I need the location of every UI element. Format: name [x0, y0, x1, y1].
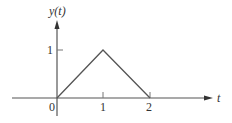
origin-label: 0 — [49, 100, 55, 114]
y-axis-label: y(t) — [48, 4, 66, 18]
x-tick-label-2: 2 — [146, 100, 152, 114]
y-axis-arrow-icon — [55, 20, 60, 29]
x-tick-label-1: 1 — [100, 100, 106, 114]
x-axis-arrow-icon — [204, 96, 213, 101]
x-axis-label: t — [217, 91, 221, 105]
y-tick-label-1: 1 — [47, 43, 53, 57]
triangle-signal-plot: y(t) t 1 0 1 2 — [0, 0, 232, 123]
signal-line — [57, 50, 150, 98]
